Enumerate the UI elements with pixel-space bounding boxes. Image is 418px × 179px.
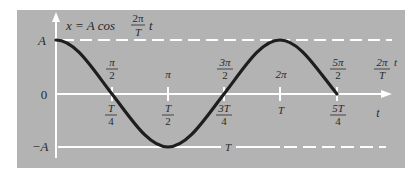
svg-text:T: T <box>108 102 115 114</box>
y-label-zero: 0 <box>41 87 48 102</box>
period-label: T <box>225 141 232 153</box>
diagram-panel <box>17 10 405 168</box>
y-label-amplitude: A <box>37 33 46 48</box>
svg-text:2: 2 <box>222 69 228 81</box>
svg-text:2: 2 <box>335 69 341 81</box>
cosine-oscillation-diagram: x = A cos 2π T t A 0 −A π 2 π 3π 2 2π 5π… <box>0 0 418 179</box>
time-label-period: T <box>278 104 285 116</box>
svg-text:x = A cos: x = A cos <box>65 18 115 33</box>
phase-label-2pi: 2π <box>275 68 287 80</box>
svg-text:3T: 3T <box>217 102 231 114</box>
svg-text:2π: 2π <box>376 56 388 68</box>
svg-text:5π: 5π <box>332 56 344 68</box>
phase-label-pi: π <box>165 68 171 80</box>
svg-text:3π: 3π <box>218 56 231 68</box>
svg-text:T: T <box>165 102 172 114</box>
y-label-neg-amplitude: −A <box>32 139 49 154</box>
svg-text:π: π <box>109 56 115 68</box>
svg-text:5T: 5T <box>332 102 345 114</box>
svg-text:2π: 2π <box>132 12 144 24</box>
svg-text:2: 2 <box>109 69 115 81</box>
svg-text:T: T <box>379 69 386 81</box>
svg-text:t: t <box>149 18 153 33</box>
svg-text:T: T <box>135 26 142 38</box>
svg-text:4: 4 <box>221 115 227 127</box>
svg-text:4: 4 <box>335 115 341 127</box>
svg-text:4: 4 <box>108 115 114 127</box>
svg-text:2: 2 <box>165 115 171 127</box>
